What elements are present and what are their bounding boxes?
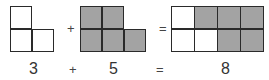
result-cell-r2c4 — [240, 29, 264, 52]
plus-sign-bottom: + — [69, 62, 77, 77]
right-cell-bottom-1 — [80, 29, 102, 52]
equals-sign-bottom: = — [156, 62, 164, 77]
result-cell-r2c1 — [171, 29, 195, 52]
left-cell-bottom-1 — [10, 29, 32, 52]
result-cell-r1c1 — [171, 6, 195, 29]
label-total: 8 — [221, 60, 230, 78]
plus-sign-top: + — [67, 21, 75, 36]
result-cell-r2c3 — [217, 29, 241, 52]
label-right-count: 5 — [109, 60, 118, 78]
label-left-count: 3 — [29, 60, 38, 78]
result-cell-r1c4 — [240, 6, 264, 29]
right-cell-top-2 — [102, 6, 124, 29]
left-cell-top — [10, 6, 32, 29]
right-cell-bottom-3 — [124, 29, 146, 52]
result-cell-r1c2 — [194, 6, 218, 29]
result-cell-r2c2 — [194, 29, 218, 52]
right-cell-bottom-2 — [102, 29, 124, 52]
left-cell-bottom-2 — [32, 29, 54, 52]
result-cell-r1c3 — [217, 6, 241, 29]
equals-sign-top: = — [159, 21, 167, 36]
right-cell-top-1 — [80, 6, 102, 29]
